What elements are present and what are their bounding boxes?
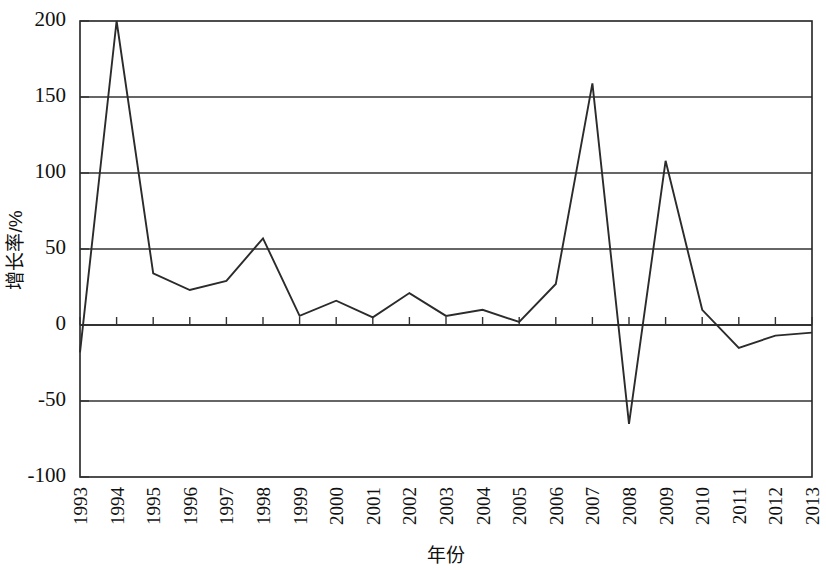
x-tick-label-2007: 2007 [582,487,603,525]
x-tick-label-1993: 1993 [70,487,91,525]
y-tick-label--100: -100 [28,463,67,487]
x-tick-label-2001: 2001 [363,487,384,525]
x-tick-label-2003: 2003 [436,487,457,525]
growth-rate-line-chart: -100-50050100150200 19931994199519961997… [0,0,826,570]
y-tick-label-150: 150 [35,83,67,107]
x-tick-label-2012: 2012 [765,487,786,525]
data-series-group [80,21,812,424]
x-tick-label-2008: 2008 [619,487,640,525]
chart-figure: -100-50050100150200 19931994199519961997… [0,0,826,570]
x-tick-label-1998: 1998 [253,487,274,525]
gridlines [80,97,812,401]
x-tick-label-1995: 1995 [143,487,164,525]
y-tick-label--50: -50 [38,387,66,411]
x-tick-label-2000: 2000 [326,487,347,525]
x-tick-label-2010: 2010 [692,487,713,525]
x-axis-title: 年份 [427,545,465,566]
x-tick-label-2013: 2013 [802,487,823,525]
x-tick-label-2004: 2004 [473,487,494,526]
x-tick-label-1996: 1996 [180,487,201,525]
x-axis-ticks [80,317,812,325]
x-tick-label-1999: 1999 [290,487,311,525]
x-tick-label-1994: 1994 [107,487,128,526]
x-tick-label-1997: 1997 [216,487,237,525]
y-tick-label-50: 50 [45,235,66,259]
x-axis-tick-labels: 1993199419951996199719981999200020012002… [70,487,823,526]
growth-rate-line [80,21,812,424]
x-tick-label-2011: 2011 [729,487,750,524]
y-tick-label-200: 200 [35,7,67,31]
x-tick-label-2002: 2002 [399,487,420,525]
x-tick-label-2005: 2005 [509,487,530,525]
x-tick-label-2006: 2006 [546,487,567,525]
y-tick-label-0: 0 [56,311,67,335]
x-tick-label-2009: 2009 [656,487,677,525]
y-tick-label-100: 100 [35,159,67,183]
y-axis-title: 增长率/% [5,210,26,289]
